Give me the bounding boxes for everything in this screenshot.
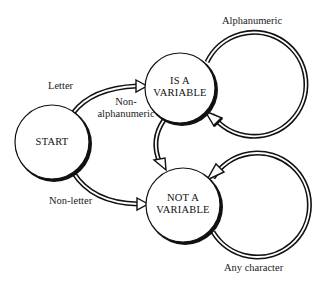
node-label-not-a-variable: NOT A VARIABLE xyxy=(148,192,218,216)
arrowhead-icon xyxy=(154,158,166,170)
edge-label-line: alphanumeric xyxy=(97,108,154,119)
node-label-line: IS A xyxy=(170,75,190,86)
node-label-start: START xyxy=(22,136,82,148)
edge-label-line: Non- xyxy=(115,96,137,107)
edge-label-non-letter: Non-letter xyxy=(49,195,92,207)
edge-non-alphanumeric xyxy=(154,120,166,170)
node-label-line: VARIABLE xyxy=(153,87,206,98)
node-label-line: NOT A xyxy=(167,192,199,203)
edge-alphanumeric-loop xyxy=(205,32,306,136)
node-label-line: VARIABLE xyxy=(156,204,209,215)
edge-label-non-alphanumeric: Non- alphanumeric xyxy=(96,96,156,119)
edge-label-any-character: Any character xyxy=(224,262,283,274)
node-label-line: START xyxy=(36,136,69,147)
edge-label-letter: Letter xyxy=(48,80,73,92)
edge-label-alphanumeric: Alphanumeric xyxy=(222,15,282,27)
